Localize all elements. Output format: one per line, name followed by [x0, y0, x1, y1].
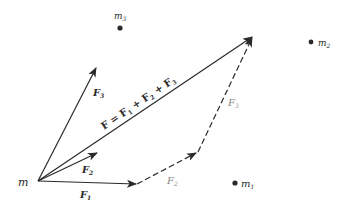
force-diagram: m m3 m2 m1 F1 F2 F3 F2 F3 F = F1 + F2 + …: [0, 0, 345, 204]
mass-m1-label: m1: [241, 178, 254, 190]
mass-m3-label: m3: [114, 11, 127, 22]
particle-label: m: [18, 176, 28, 189]
vector-f2-label: F2: [81, 164, 93, 176]
mass-m3-dot: [117, 25, 122, 30]
diagram-svg: m m3 m2 m1 F1 F2 F3 F2 F3 F = F1 + F2 + …: [0, 0, 345, 204]
resultant-equation-label: F = F1 + F2 + F3: [99, 74, 178, 133]
mass-m2-label: m2: [318, 38, 331, 49]
mass-m1-dot: [232, 180, 237, 185]
vector-f3-label: F3: [92, 87, 104, 99]
vector-f2-translated-label: F2: [166, 175, 178, 187]
vector-f1-arrow: [38, 181, 136, 184]
resultant-f-arrow: [38, 37, 252, 181]
vector-f3-translated-label: F3: [227, 97, 239, 109]
mass-m2-dot: [309, 40, 314, 45]
vector-f1-label: F1: [79, 189, 91, 201]
